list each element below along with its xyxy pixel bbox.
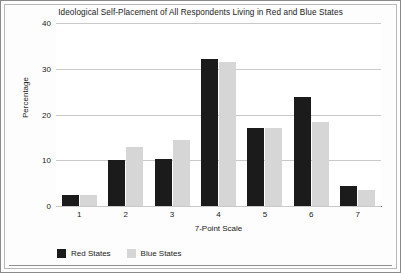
bar: [294, 97, 311, 206]
bar: [358, 190, 375, 206]
bar-group: [102, 23, 148, 206]
bar: [201, 59, 218, 206]
bar: [126, 147, 143, 206]
x-axis-tick-label: 5: [263, 210, 267, 219]
x-axis-title: 7-Point Scale: [56, 224, 381, 233]
bar-group: [335, 23, 381, 206]
chart-figure: Ideological Self-Placement of All Respon…: [0, 0, 401, 273]
legend-swatch-icon: [57, 249, 66, 258]
gridline: [56, 206, 381, 207]
legend-label: Red States: [71, 249, 111, 258]
bar-group: [288, 23, 334, 206]
x-axis-tick-label: 2: [123, 210, 127, 219]
bar: [155, 159, 172, 206]
bar-group: [242, 23, 288, 206]
x-axis-tick-label: 1: [77, 210, 81, 219]
bars-layer: [56, 23, 381, 206]
bar: [247, 128, 264, 206]
x-axis-tick-label: 6: [309, 210, 313, 219]
y-axis-tick-label: 40: [27, 19, 51, 28]
legend-item: Blue States: [127, 249, 182, 258]
plot-area: [56, 23, 381, 206]
x-axis-tick-label: 4: [216, 210, 220, 219]
legend-item: Red States: [57, 249, 111, 258]
legend-label: Blue States: [141, 249, 182, 258]
x-axis-tick-label: 3: [170, 210, 174, 219]
bar: [173, 140, 190, 206]
bar: [312, 122, 329, 206]
bar: [80, 195, 97, 206]
y-axis-tick-labels: 010203040: [23, 23, 51, 206]
y-axis-tick-label: 0: [27, 202, 51, 211]
chart-title: Ideological Self-Placement of All Respon…: [1, 8, 400, 17]
y-axis-tick-label: 10: [27, 156, 51, 165]
legend-swatch-icon: [127, 249, 136, 258]
y-axis-tick-label: 20: [27, 110, 51, 119]
bar: [108, 160, 125, 206]
legend-divider: [9, 265, 392, 266]
bar-group: [195, 23, 241, 206]
bar: [62, 195, 79, 206]
bar: [340, 186, 357, 206]
bar-group: [56, 23, 102, 206]
bar-group: [149, 23, 195, 206]
y-axis-tick-label: 30: [27, 64, 51, 73]
chart-legend: Red StatesBlue States: [57, 249, 182, 258]
bar: [219, 62, 236, 206]
x-axis-tick-label: 7: [356, 210, 360, 219]
bar: [265, 128, 282, 206]
